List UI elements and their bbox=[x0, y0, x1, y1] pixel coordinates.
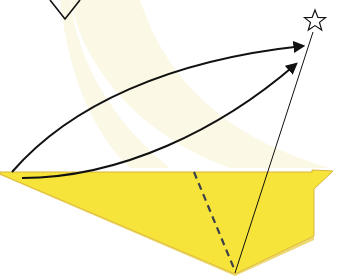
target-star-icon bbox=[305, 10, 326, 30]
paper-shape bbox=[0, 170, 333, 274]
origami-diagram bbox=[0, 0, 340, 280]
diagram-canvas bbox=[0, 0, 340, 280]
